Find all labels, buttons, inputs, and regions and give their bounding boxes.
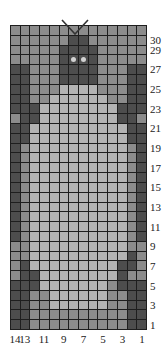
stitch-cell [69, 85, 78, 94]
stitch-cell [69, 46, 78, 55]
stitch-cell [60, 271, 69, 280]
stitch-cell [69, 310, 78, 319]
stitch-cell [11, 203, 20, 212]
stitch-cell [79, 75, 88, 84]
stitch-cell [60, 252, 69, 261]
stitch-cell [40, 55, 49, 64]
stitch-cell [30, 163, 39, 172]
stitch-cell [50, 55, 59, 64]
stitch-cell [69, 261, 78, 270]
stitch-cell [69, 153, 78, 162]
stitch-cell [98, 104, 107, 113]
stitch-cell [60, 134, 69, 143]
stitch-cell [50, 310, 59, 319]
stitch-cell [21, 212, 30, 221]
stitch-cell [40, 104, 49, 113]
column-label: 11 [39, 334, 50, 345]
stitch-cell [40, 134, 49, 143]
stitch-cell [11, 222, 20, 231]
stitch-cell [137, 242, 146, 251]
stitch-cell [89, 310, 98, 319]
stitch-cell [128, 153, 137, 162]
stitch-cell [128, 320, 137, 329]
stitch-cell [108, 310, 117, 319]
stitch-cell [137, 95, 146, 104]
stitch-cell [98, 291, 107, 300]
stitch-cell [128, 212, 137, 221]
stitch-cell [40, 163, 49, 172]
stitch-cell [98, 193, 107, 202]
stitch-cell [11, 183, 20, 192]
stitch-cell [89, 252, 98, 261]
stitch-cell [60, 310, 69, 319]
stitch-cell [60, 301, 69, 310]
stitch-cell [50, 104, 59, 113]
stitch-cell [137, 320, 146, 329]
stitch-cell [60, 46, 69, 55]
stitch-cell [30, 203, 39, 212]
stitch-cell [118, 193, 127, 202]
stitch-cell [69, 75, 78, 84]
stitch-cell [50, 75, 59, 84]
stitch-cell [30, 301, 39, 310]
stitch-cell [79, 301, 88, 310]
stitch-cell [79, 163, 88, 172]
stitch-cell [11, 75, 20, 84]
row-label: 7 [150, 261, 156, 272]
stitch-cell [108, 124, 117, 133]
stitch-cell [50, 242, 59, 251]
stitch-cell [98, 281, 107, 290]
row-label: 23 [150, 104, 161, 115]
column-label: 3 [120, 334, 126, 345]
stitch-cell [98, 173, 107, 182]
stitch-cell [118, 212, 127, 221]
stitch-cell [137, 252, 146, 261]
stitch-cell [108, 55, 117, 64]
stitch-cell [118, 281, 127, 290]
stitch-cell [50, 85, 59, 94]
stitch-cell [60, 75, 69, 84]
stitch-cell [118, 134, 127, 143]
stitch-cell [50, 320, 59, 329]
stitch-cell [69, 134, 78, 143]
stitch-cell [60, 203, 69, 212]
stitch-cell [40, 144, 49, 153]
stitch-cell [128, 144, 137, 153]
stitch-cell [118, 261, 127, 270]
stitch-cell [108, 163, 117, 172]
stitch-cell [128, 114, 137, 123]
stitch-cell [128, 36, 137, 45]
stitch-cell [30, 55, 39, 64]
stitch-cell [50, 163, 59, 172]
stitch-cell [30, 95, 39, 104]
stitch-cell [118, 144, 127, 153]
stitch-cell [69, 163, 78, 172]
stitch-cell [98, 55, 107, 64]
knitting-chart-grid [10, 25, 147, 330]
stitch-cell [128, 203, 137, 212]
stitch-cell [30, 26, 39, 35]
stitch-cell [60, 183, 69, 192]
stitch-cell [21, 85, 30, 94]
stitch-cell [89, 114, 98, 123]
row-label: 11 [150, 222, 161, 233]
stitch-cell [89, 232, 98, 241]
stitch-cell [69, 271, 78, 280]
stitch-cell [21, 261, 30, 270]
stitch-cell [40, 85, 49, 94]
stitch-cell [11, 212, 20, 221]
stitch-cell [108, 75, 117, 84]
stitch-cell [137, 163, 146, 172]
stitch-cell [60, 95, 69, 104]
stitch-cell [30, 252, 39, 261]
stitch-cell [21, 183, 30, 192]
stitch-cell [40, 271, 49, 280]
stitch-cell [50, 46, 59, 55]
row-label: 5 [150, 281, 156, 292]
stitch-cell [108, 144, 117, 153]
stitch-cell [137, 114, 146, 123]
stitch-cell [60, 281, 69, 290]
stitch-cell [108, 65, 117, 74]
stitch-cell [40, 95, 49, 104]
stitch-cell [11, 85, 20, 94]
